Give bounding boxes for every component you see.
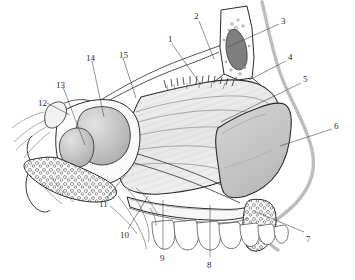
label-number-9: 9 <box>160 254 165 263</box>
label-number-14: 14 <box>86 54 95 63</box>
label-number-2: 2 <box>194 12 199 21</box>
label-number-11: 11 <box>99 200 108 209</box>
anatomical-figure: 123456789101112131415 <box>0 0 355 280</box>
label-number-13: 13 <box>56 81 65 90</box>
label-number-1: 1 <box>168 35 173 44</box>
label-number-12: 12 <box>38 99 47 108</box>
label-number-3: 3 <box>281 17 286 26</box>
label-number-6: 6 <box>334 122 339 131</box>
anatomy-illustration <box>0 0 355 280</box>
label-number-4: 4 <box>288 53 293 62</box>
label-number-5: 5 <box>303 75 308 84</box>
label-number-7: 7 <box>306 235 311 244</box>
label-number-10: 10 <box>120 231 129 240</box>
leader-line-1 <box>172 44 201 85</box>
leader-line-2 <box>199 21 214 59</box>
soft-tissue-strands <box>110 188 158 249</box>
label-number-8: 8 <box>207 261 212 270</box>
label-number-15: 15 <box>119 51 128 60</box>
